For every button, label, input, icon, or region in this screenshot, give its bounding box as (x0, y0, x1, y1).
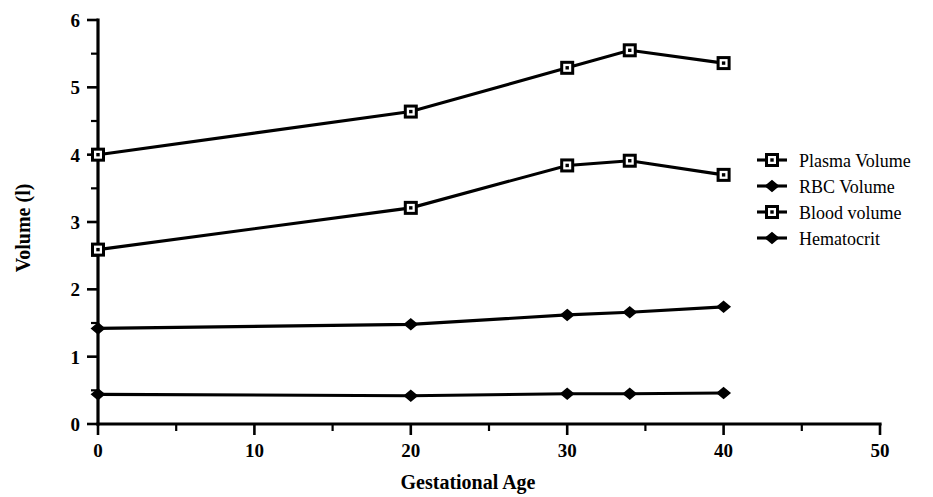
data-point-marker (717, 388, 729, 398)
data-point-marker (405, 319, 417, 329)
x-tick-label: 10 (245, 440, 264, 461)
data-point-marker (717, 302, 729, 312)
data-point-marker (92, 323, 104, 333)
legend-item-blood-volume: Blood volume (757, 203, 902, 223)
y-tick-label: 3 (71, 212, 81, 233)
series-line (98, 50, 724, 154)
series-group (92, 45, 730, 401)
x-axis-tick-labels: 01020304050 (93, 440, 889, 461)
legend-label: RBC Volume (799, 177, 895, 197)
legend-marker-core (770, 210, 773, 213)
data-point-marker-core (409, 110, 412, 113)
data-point-marker (405, 391, 417, 401)
y-tick-label: 5 (71, 77, 81, 98)
x-axis-ticks (98, 424, 880, 435)
x-tick-label: 40 (714, 440, 733, 461)
line-chart: 0123456 01020304050 Volume (l) Gestation… (0, 0, 933, 497)
legend-label: Hematocrit (799, 229, 880, 249)
legend-marker (766, 233, 778, 243)
x-tick-label: 30 (558, 440, 577, 461)
data-point-marker-core (628, 49, 631, 52)
chart-legend: Plasma VolumeRBC VolumeBlood volumeHemat… (757, 151, 911, 249)
data-point-marker-core (722, 61, 725, 64)
data-point-marker-core (409, 206, 412, 209)
y-axis-ticks (87, 20, 98, 424)
y-axis-tick-labels: 0123456 (71, 10, 81, 435)
y-tick-label: 6 (71, 10, 81, 31)
legend-label: Plasma Volume (799, 151, 911, 171)
x-tick-label: 0 (93, 440, 103, 461)
data-point-marker (624, 307, 636, 317)
x-tick-label: 50 (871, 440, 890, 461)
legend-label: Blood volume (799, 203, 902, 223)
data-point-marker-core (566, 66, 569, 69)
legend-item-hematocrit: Hematocrit (757, 229, 880, 249)
data-point-marker (624, 389, 636, 399)
y-tick-label: 1 (71, 347, 81, 368)
data-point-marker-core (96, 248, 99, 251)
x-axis-title: Gestational Age (401, 471, 536, 494)
x-tick-label: 20 (401, 440, 420, 461)
y-tick-label: 2 (71, 279, 81, 300)
data-point-marker-core (722, 173, 725, 176)
y-tick-label: 4 (71, 145, 81, 166)
data-point-marker (561, 310, 573, 320)
data-point-marker (561, 389, 573, 399)
legend-item-rbc-volume: RBC Volume (757, 177, 895, 197)
legend-marker-core (770, 158, 773, 161)
y-axis-title: Volume (l) (12, 184, 35, 273)
series-rbc-volume (92, 302, 730, 334)
chart-figure: 0123456 01020304050 Volume (l) Gestation… (0, 0, 933, 497)
data-point-marker-core (628, 159, 631, 162)
series-blood-volume (93, 45, 730, 160)
y-tick-label: 0 (71, 414, 81, 435)
series-hematocrit (92, 388, 730, 401)
legend-item-plasma-volume: Plasma Volume (757, 151, 911, 171)
legend-marker (766, 181, 778, 191)
data-point-marker-core (96, 153, 99, 156)
series-plasma-volume (93, 155, 730, 255)
data-point-marker-core (566, 164, 569, 167)
